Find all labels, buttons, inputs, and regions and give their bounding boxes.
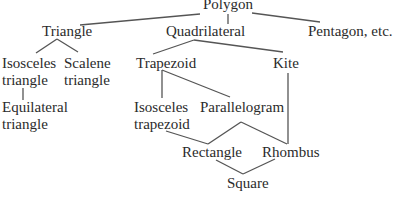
node-equilateral-triangle-line1: Equilateral	[2, 99, 68, 116]
edge-rectangle-square	[216, 160, 243, 174]
node-rhombus: Rhombus	[262, 144, 320, 161]
node-trapezoid-label: Trapezoid	[136, 55, 196, 71]
edge-polygon-pentagon	[252, 13, 320, 22]
node-triangle-label: Triangle	[42, 23, 92, 39]
node-isosceles-trapezoid-line1: Isosceles	[134, 99, 190, 116]
node-quadrilateral: Quadrilateral	[166, 23, 245, 40]
node-kite-label: Kite	[273, 55, 299, 71]
edge-quadrilateral-kite	[194, 40, 283, 52]
node-parallelogram-label: Parallelogram	[200, 99, 284, 115]
node-trapezoid: Trapezoid	[136, 55, 196, 72]
node-rectangle-label: Rectangle	[182, 144, 242, 160]
edge-quadrilateral-trapezoid	[153, 40, 194, 54]
node-square-label: Square	[227, 175, 269, 191]
node-quadrilateral-label: Quadrilateral	[166, 23, 245, 39]
node-rectangle: Rectangle	[182, 144, 242, 161]
node-scalene-triangle-line2: triangle	[64, 72, 111, 89]
node-triangle: Triangle	[42, 23, 92, 40]
node-pentagon-label: Pentagon, etc.	[308, 23, 393, 39]
node-square: Square	[227, 175, 269, 192]
node-rhombus-label: Rhombus	[262, 144, 320, 160]
edge-triangle-isosceles	[36, 39, 57, 53]
node-polygon: Polygon	[203, 0, 253, 13]
edge-triangle-scalene	[57, 39, 78, 52]
edge-trapezoid-parallelogram	[162, 70, 230, 97]
node-equilateral-triangle: Equilateral triangle	[2, 99, 68, 133]
node-kite: Kite	[273, 55, 299, 72]
edge-parallelogram-rectangle	[208, 122, 241, 144]
node-isosceles-trapezoid: Isosceles trapezoid	[134, 99, 190, 133]
node-parallelogram: Parallelogram	[200, 99, 284, 116]
node-isosceles-triangle: Isosceles triangle	[2, 55, 56, 89]
node-scalene-triangle-line1: Scalene	[64, 55, 111, 72]
node-isosceles-triangle-line2: triangle	[2, 72, 56, 89]
node-scalene-triangle: Scalene triangle	[64, 55, 111, 89]
node-isosceles-triangle-line1: Isosceles	[2, 55, 56, 72]
edge-rhombus-square	[243, 159, 275, 174]
node-equilateral-triangle-line2: triangle	[2, 116, 68, 133]
node-pentagon: Pentagon, etc.	[308, 23, 393, 40]
node-isosceles-trapezoid-line2: trapezoid	[134, 116, 190, 133]
node-polygon-label: Polygon	[203, 0, 253, 12]
edge-parallelogram-rhombus	[241, 122, 287, 144]
